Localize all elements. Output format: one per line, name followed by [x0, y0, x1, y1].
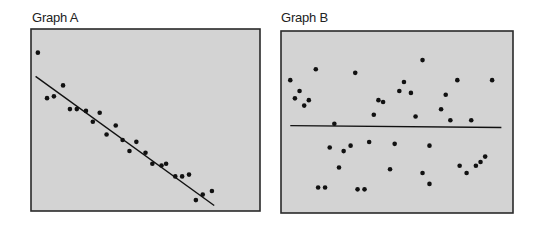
graph-a-data-point [164, 161, 169, 166]
graph-a-data-point [120, 138, 125, 143]
graph-a-data-point [84, 109, 89, 114]
graph-b-data-point [288, 78, 293, 83]
graph-b-data-point [353, 71, 358, 76]
graph-b-data-point [314, 67, 319, 72]
graph-b-data-point [327, 145, 332, 150]
graph-a-data-point [52, 94, 57, 99]
graph-b-data-point [413, 114, 418, 119]
graph-a-data-point [91, 120, 96, 125]
graph-b-data-point [316, 185, 321, 190]
graph-b-data-point [355, 187, 360, 192]
graph-a-data-point [200, 192, 205, 197]
graph-a-data-point [75, 107, 80, 112]
graph-a-data-point [180, 174, 185, 179]
graph-b-data-point [402, 80, 407, 85]
graph-a-data-point [113, 123, 118, 128]
graph-b-data-point [448, 118, 453, 123]
graph-b-data-point [332, 122, 337, 127]
graph-b-data-point [293, 96, 298, 101]
graph-b-data-point [392, 142, 397, 147]
graph-b-data-point [376, 98, 381, 103]
graph-b-data-point [474, 163, 479, 168]
graph-b-data-point [372, 112, 377, 117]
graph-a-data-point [134, 140, 139, 145]
graph-a-data-point [194, 198, 199, 203]
graph-b-data-point [427, 143, 432, 148]
graph-a-data-point [45, 96, 50, 101]
graph-a-data-point [97, 110, 102, 115]
graph-b-data-point [469, 118, 474, 123]
graph-b-data-point [388, 167, 393, 172]
graph-b-data-point [362, 187, 367, 192]
graph-b-data-point [397, 89, 402, 94]
graph-b-data-point [490, 78, 495, 83]
graph-a-data-point [68, 107, 73, 112]
graph-a-data-point [127, 149, 132, 154]
graph-b-data-point [455, 78, 460, 83]
graph-b-data-point [457, 163, 462, 168]
graph-a-data-point [104, 132, 109, 137]
graph-b-data-point [420, 171, 425, 176]
graph-a-plot-area [31, 29, 260, 211]
graph-b-data-point [439, 107, 444, 112]
graph-b-data-point [420, 58, 425, 63]
graph-b-data-point [297, 89, 302, 94]
graph-b-data-point [341, 149, 346, 154]
graph-b-data-point [348, 143, 353, 148]
graph-b-data-point [323, 185, 328, 190]
graph-b-data-point [464, 171, 469, 176]
graph-b-data-point [427, 182, 432, 187]
graph-b-data-point [307, 98, 312, 103]
graph-a-data-point [36, 50, 41, 55]
graph-b-data-point [302, 103, 307, 108]
graph-a-data-point [159, 163, 164, 168]
graph-b-data-point [443, 92, 448, 97]
scatter-plots [0, 0, 538, 226]
graph-b-data-point [478, 160, 483, 165]
graph-b-data-point [367, 140, 372, 145]
graph-a-data-point [210, 189, 215, 194]
graph-a-data-point [187, 172, 192, 177]
graph-a-data-point [143, 150, 148, 155]
graph-b-plot-area [281, 31, 513, 213]
graph-a-data-point [61, 83, 66, 88]
graph-a-data-point [150, 161, 155, 166]
graph-a-data-point [173, 174, 178, 179]
graph-b-data-point [381, 100, 386, 105]
graph-b-data-point [409, 91, 414, 96]
graph-b-data-point [483, 154, 488, 159]
graph-b-data-point [337, 165, 342, 170]
